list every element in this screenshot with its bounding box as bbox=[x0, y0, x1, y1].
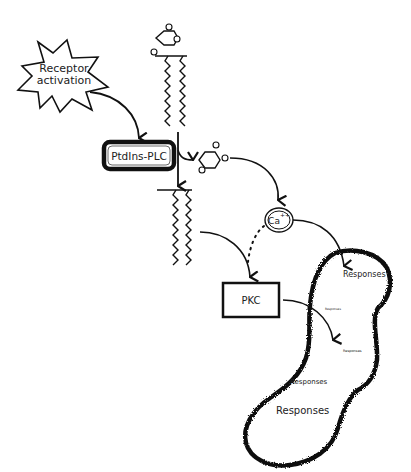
arrow-ip3-to-calcium bbox=[230, 158, 278, 200]
pathway-diagram: Receptor activation PtdIns-PLC bbox=[0, 0, 411, 472]
calcium-superscript: ++ bbox=[280, 211, 290, 218]
arrow-dag-to-pkc bbox=[200, 232, 250, 277]
arrow-calcium-to-responses bbox=[293, 220, 344, 266]
responses-label-2: Responses bbox=[325, 307, 341, 311]
calcium-label: Ca bbox=[268, 216, 280, 226]
dag-lipid-icon bbox=[157, 190, 192, 265]
dotted-calcium-to-pkc bbox=[248, 226, 264, 262]
responses-label-3: Responses bbox=[343, 349, 362, 353]
calcium-node: Ca ++ bbox=[265, 208, 293, 232]
arrow-receptor-to-plc bbox=[90, 92, 139, 138]
ptdins-lipid-icon bbox=[151, 24, 187, 126]
responses-label-4: Responses bbox=[290, 378, 328, 386]
pkc-label: PKC bbox=[241, 295, 260, 306]
responses-label-5: Responses bbox=[276, 405, 329, 416]
receptor-activation-starburst: Receptor activation bbox=[18, 40, 108, 112]
ptdins-plc-box: PtdIns-PLC bbox=[104, 142, 174, 169]
receptor-label-line2: activation bbox=[37, 74, 92, 87]
ip3-inositol-icon bbox=[199, 142, 228, 173]
pkc-box: PKC bbox=[223, 283, 279, 317]
arrow-to-ip3 bbox=[178, 150, 193, 160]
responses-label-1: Responses bbox=[343, 270, 386, 279]
plc-label: PtdIns-PLC bbox=[111, 150, 167, 162]
